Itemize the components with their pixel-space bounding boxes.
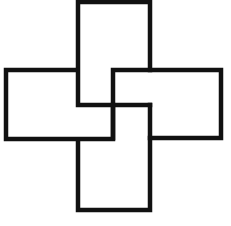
pinwheel-cross-diagram bbox=[0, 0, 231, 226]
